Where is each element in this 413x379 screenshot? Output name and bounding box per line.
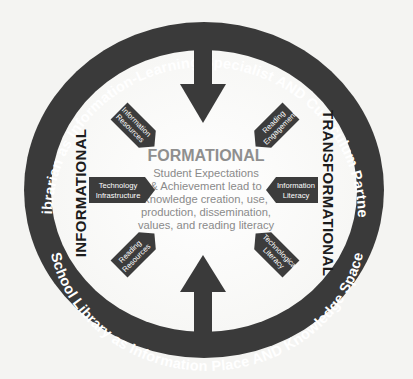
formational-diagram: School Librarian as Information-Learning… (0, 0, 413, 379)
node-technology-infrastructure: Technology Infrastructure (89, 177, 155, 203)
center-line-2: & Achievement lead to (150, 180, 261, 192)
center-line-5: values, and reading literacy (138, 219, 275, 231)
center-block: FORMATIONAL Student Expectations & Achie… (138, 147, 275, 231)
center-line-3: knowledge creation, use, (144, 193, 268, 205)
center-line-1: Student Expectations (153, 167, 259, 179)
node-information-literacy: Information Literacy (266, 177, 318, 203)
svg-text:Information: Information (277, 181, 315, 190)
informational-label: INFORMATIONAL (72, 129, 89, 258)
svg-text:Technology: Technology (99, 181, 138, 190)
transformational-label: TRANSFORMATIONAL (320, 110, 337, 276)
svg-text:Infrastructure: Infrastructure (96, 191, 141, 200)
svg-text:Literacy: Literacy (283, 191, 310, 200)
center-line-4: production, dissemination, (141, 206, 271, 218)
center-title: FORMATIONAL (147, 147, 264, 164)
